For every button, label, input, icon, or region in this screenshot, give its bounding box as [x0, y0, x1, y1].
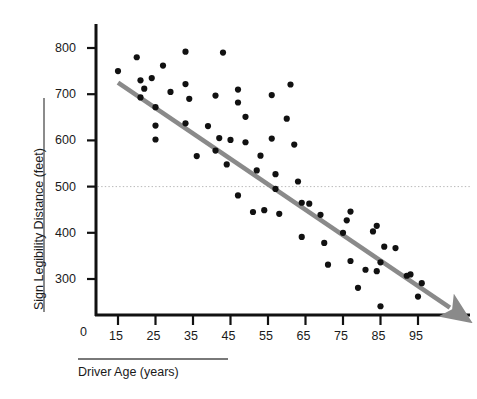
scatter-point	[235, 86, 241, 92]
x-axis-title: Driver Age (years)	[78, 366, 179, 379]
scatter-point	[362, 267, 368, 273]
scatter-point	[152, 104, 158, 110]
scatter-point	[306, 201, 312, 207]
y-tick-label-400: 400	[55, 227, 76, 240]
scatter-point	[321, 240, 327, 246]
x-tick-label-25: 25	[147, 330, 161, 343]
scatter-point	[235, 99, 241, 105]
scatter-point	[257, 153, 263, 159]
y-tick-label-800: 800	[55, 42, 76, 55]
scatter-point	[137, 77, 143, 83]
x-tick-label-65: 65	[297, 330, 311, 343]
scatter-point	[250, 209, 256, 215]
scatter-point	[152, 123, 158, 129]
scatter-point	[134, 54, 140, 60]
scatter-point	[186, 96, 192, 102]
y-tick-label-300: 300	[55, 273, 76, 286]
scatter-point	[381, 244, 387, 250]
y-tick-label-500: 500	[55, 181, 76, 194]
scatter-point	[284, 116, 290, 122]
scatter-point	[287, 81, 293, 87]
scatter-plot-figure: 300400500600700800 152535455565758595 0 …	[0, 0, 477, 399]
scatter-point	[269, 135, 275, 141]
scatter-point	[182, 120, 188, 126]
scatter-point	[182, 81, 188, 87]
scatter-point	[115, 68, 121, 74]
scatter-point	[220, 50, 226, 56]
scatter-point	[269, 92, 275, 98]
scatter-point	[295, 178, 301, 184]
scatter-point	[347, 258, 353, 264]
scatter-point	[261, 207, 267, 213]
scatter-point	[141, 86, 147, 92]
y-tick-label-600: 600	[55, 134, 76, 147]
scatter-point	[344, 217, 350, 223]
x-tick-label-75: 75	[334, 330, 348, 343]
scatter-point	[291, 141, 297, 147]
scatter-point	[407, 271, 413, 277]
y-axis-origin-label: 0	[80, 326, 87, 339]
scatter-point	[149, 75, 155, 81]
scatter-point	[370, 228, 376, 234]
scatter-point	[212, 147, 218, 153]
scatter-point	[212, 92, 218, 98]
scatter-point	[137, 94, 143, 100]
scatter-point	[377, 259, 383, 265]
scatter-point	[317, 212, 323, 218]
y-tick-label-700: 700	[55, 88, 76, 101]
scatter-point	[272, 171, 278, 177]
scatter-point	[242, 139, 248, 145]
x-tick-label-45: 45	[222, 330, 236, 343]
x-tick-label-95: 95	[409, 330, 423, 343]
scatter-point	[355, 285, 361, 291]
scatter-point	[216, 135, 222, 141]
scatter-point	[152, 136, 158, 142]
scatter-point	[182, 49, 188, 55]
scatter-point	[167, 89, 173, 95]
scatter-point	[325, 262, 331, 268]
scatter-point	[415, 293, 421, 299]
scatter-point	[242, 114, 248, 120]
scatter-point	[272, 186, 278, 192]
scatter-point	[276, 211, 282, 217]
x-tick-label-85: 85	[372, 330, 386, 343]
x-tick-label-15: 15	[109, 330, 123, 343]
scatter-point	[160, 62, 166, 68]
x-tick-label-55: 55	[259, 330, 273, 343]
scatter-point	[299, 234, 305, 240]
x-tick-label-35: 35	[184, 330, 198, 343]
scatter-point	[374, 223, 380, 229]
scatter-point	[340, 230, 346, 236]
scatter-point	[347, 208, 353, 214]
trend-line	[118, 83, 450, 308]
scatter-point	[419, 280, 425, 286]
scatter-point	[299, 200, 305, 206]
scatter-point-group	[115, 49, 425, 310]
scatter-point	[194, 153, 200, 159]
scatter-point	[377, 303, 383, 309]
scatter-point	[392, 245, 398, 251]
scatter-point	[224, 161, 230, 167]
y-axis-title: Sign Legibility Distance (feet)	[33, 148, 46, 310]
scatter-point	[205, 123, 211, 129]
scatter-point	[254, 167, 260, 173]
plot-canvas	[0, 0, 477, 399]
scatter-point	[227, 137, 233, 143]
scatter-point	[374, 268, 380, 274]
scatter-point	[235, 192, 241, 198]
